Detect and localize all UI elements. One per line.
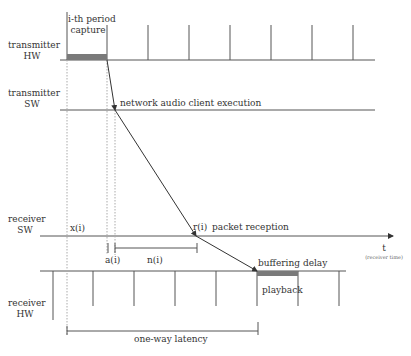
time-axis-sublabel: (receiver time) xyxy=(361,254,407,260)
time-axis-label: t xyxy=(366,243,402,254)
capture-label-line: i-th period xyxy=(68,14,108,25)
row-label-line: HW xyxy=(8,51,56,62)
a-i-label: a(i) xyxy=(105,255,120,266)
row-label-line: transmitter xyxy=(8,40,56,51)
row-label-line: transmitter xyxy=(8,88,56,99)
x-i-label: x(i) xyxy=(70,223,85,234)
n-i-label: n(i) xyxy=(147,255,163,266)
packet-path xyxy=(107,60,257,271)
one-way-latency-label: one-way latency xyxy=(134,334,208,345)
row-label-line: SW xyxy=(8,225,42,236)
playback-label: playback xyxy=(262,285,303,296)
dotted-guides xyxy=(67,60,115,335)
row-label-receiver-sw: receiver SW xyxy=(8,214,42,236)
row-label-line: HW xyxy=(8,309,42,320)
playback-bar xyxy=(257,271,298,276)
capture-label-line: capture xyxy=(68,25,108,36)
client-execution-label: network audio client execution xyxy=(120,98,261,109)
row-label-line: receiver xyxy=(8,298,42,309)
interval-brackets xyxy=(108,243,197,253)
timing-diagram xyxy=(0,0,411,356)
row-label-transmitter-sw: transmitter SW xyxy=(8,88,56,110)
buffering-delay-label: buffering delay xyxy=(258,258,327,269)
r-i-label: r(i) xyxy=(193,222,207,233)
row-label-transmitter-hw: transmitter HW xyxy=(8,40,56,62)
capture-bar xyxy=(67,54,107,60)
row-label-line: SW xyxy=(8,99,56,110)
row-label-line: receiver xyxy=(8,214,42,225)
packet-reception-label: packet reception xyxy=(212,222,289,233)
capture-label: i-th period capture xyxy=(68,14,108,36)
row-label-receiver-hw: receiver HW xyxy=(8,298,42,320)
